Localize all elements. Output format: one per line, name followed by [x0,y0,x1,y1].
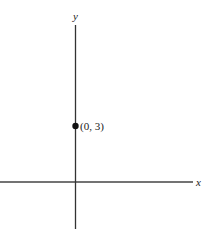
data-point [72,123,78,129]
y-axis-label: y [72,10,78,22]
coordinate-plane: y x (0, 3) [0,0,214,240]
point-label: (0, 3) [80,120,104,133]
x-axis-label: x [195,176,201,188]
